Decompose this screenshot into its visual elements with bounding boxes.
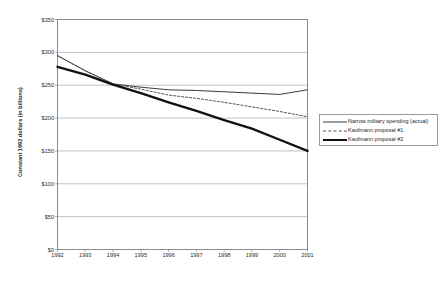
legend-key-dashed-line-icon	[322, 126, 348, 135]
chart-legend: Narrow military spending (actual) Kaufma…	[319, 114, 438, 146]
line-chart: Constant 1992 dollars (in billions) $0$5…	[0, 0, 440, 283]
legend-item-2: Kaufmann proposal #2	[322, 135, 435, 144]
legend-key-line-icon	[322, 117, 348, 126]
legend-item-1: Kaufmann proposal #1	[322, 126, 435, 135]
legend-key-thick-line-icon	[322, 135, 348, 144]
legend-label: Narrow military spending (actual)	[348, 117, 428, 126]
legend-label: Kaufmann proposal #2	[348, 135, 403, 144]
legend-label: Kaufmann proposal #1	[348, 126, 403, 135]
legend-item-0: Narrow military spending (actual)	[322, 117, 435, 126]
series-line-2	[58, 67, 308, 151]
plot-frame	[58, 20, 308, 250]
